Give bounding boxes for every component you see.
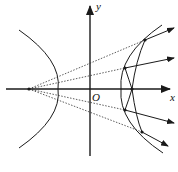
x-axis-label: x (169, 91, 175, 103)
left-focus (27, 87, 30, 90)
origin-label: O (92, 91, 100, 103)
hyperbola-diagram: y x O (0, 0, 178, 172)
diagram-canvas: y x O (0, 0, 178, 172)
inner-curve (132, 40, 145, 132)
reflection-points (123, 38, 146, 133)
y-axis-label: y (95, 0, 101, 12)
